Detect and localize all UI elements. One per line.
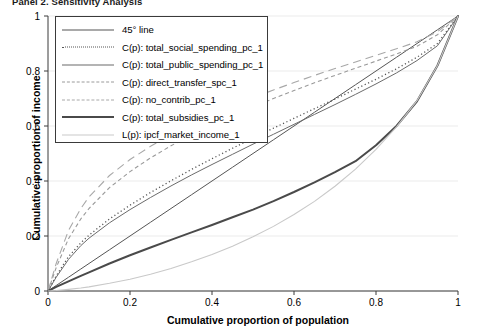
legend-item[interactable]: C(p): total_social_spending_pc_1 bbox=[56, 39, 267, 57]
legend-line-swatch-icon bbox=[62, 111, 114, 123]
legend-item[interactable]: C(p): direct_transfer_spc_1 bbox=[56, 74, 267, 92]
legend-line-swatch-icon bbox=[62, 24, 114, 36]
legend-line-swatch-icon bbox=[62, 59, 114, 71]
legend-item[interactable]: 45° line bbox=[56, 21, 267, 39]
chart-legend: 45° lineC(p): total_social_spending_pc_1… bbox=[55, 16, 268, 143]
legend-item-label: C(p): total_subsidies_pc_1 bbox=[122, 112, 234, 123]
legend-item[interactable]: L(p): ipcf_market_income_1 bbox=[56, 126, 267, 144]
legend-item-label: C(p): direct_transfer_spc_1 bbox=[122, 77, 237, 88]
legend-item-label: C(p): total_public_spending_pc_1 bbox=[122, 59, 263, 70]
legend-item-label: L(p): ipcf_market_income_1 bbox=[122, 129, 240, 140]
legend-line-swatch-icon bbox=[62, 41, 114, 53]
chart-page: Panel 2. Sensitivity Analysis Cumulative… bbox=[0, 0, 477, 335]
legend-item-label: 45° line bbox=[122, 24, 154, 35]
legend-line-swatch-icon bbox=[62, 129, 114, 141]
legend-item[interactable]: C(p): total_public_spending_pc_1 bbox=[56, 56, 267, 74]
legend-item-label: C(p): no_contrib_pc_1 bbox=[122, 94, 216, 105]
legend-line-swatch-icon bbox=[62, 76, 114, 88]
legend-item[interactable]: C(p): no_contrib_pc_1 bbox=[56, 91, 267, 109]
legend-line-swatch-icon bbox=[62, 94, 114, 106]
legend-item-label: C(p): total_social_spending_pc_1 bbox=[122, 42, 263, 53]
legend-item[interactable]: C(p): total_subsidies_pc_1 bbox=[56, 109, 267, 127]
